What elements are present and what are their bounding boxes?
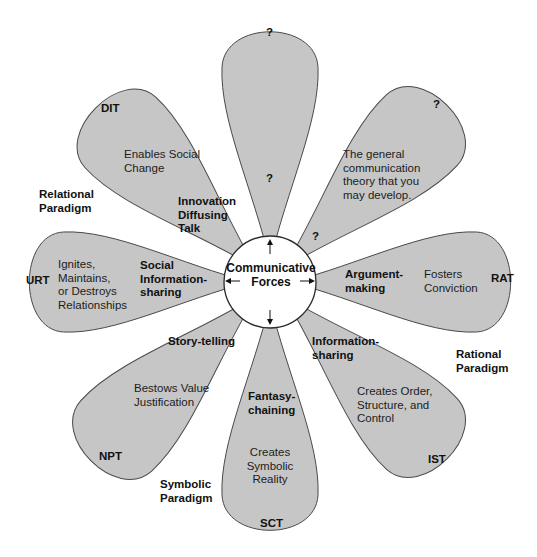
lower-left-petal-force: Story-telling [168,335,235,349]
lower-left-petal-effect: Bestows Value Justification [134,382,209,409]
symbolic-paradigm-label: Symbolic Paradigm [160,478,212,505]
center-label-line1: Communicative [226,262,316,276]
lower-right-petal-effect: Creates Order, Structure, and Control [357,385,432,426]
upper-left-petal-effect: Enables Social Change [124,148,200,175]
left-petal-force: Social Information- sharing [140,259,207,300]
rational-paradigm-label: Rational Paradigm [456,348,508,375]
right-petal-force: Argument- making [345,268,403,295]
top-petal-inner: ? [266,172,273,186]
bottom-petal-effect: Creates Symbolic Reality [230,446,310,487]
left-petal-effect: Ignites, Maintains, or Destroys Relation… [58,258,127,312]
upper-left-petal-theory: DIT [101,102,120,116]
top-petal-theory: ? [266,26,273,40]
right-petal-effect: Fosters Conviction [424,268,478,295]
upper-left-petal-force: Innovation Diffusing Talk [178,195,236,236]
right-petal-theory: RAT [491,272,514,286]
bottom-petal-force: Fantasy- chaining [248,390,295,417]
lower-right-petal-theory: IST [428,453,446,467]
top-petal [222,32,318,262]
upper-right-petal-effect: The general communication theory that yo… [343,148,420,202]
lower-left-petal-theory: NPT [99,450,122,464]
lower-right-petal-force: Information- sharing [312,335,379,362]
left-petal-theory: URT [26,274,50,288]
relational-paradigm-label: Relational Paradigm [39,188,94,215]
center-label-line2: Forces [226,276,316,290]
upper-right-petal-theory: ? [433,98,440,112]
upper-right-petal-force: ? [312,230,319,244]
bottom-petal-theory: SCT [260,517,283,531]
